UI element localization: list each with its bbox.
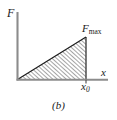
x-axis-label-text: x [101, 66, 106, 78]
x0-subscript: 0 [86, 85, 90, 94]
f-max-subscript: max [89, 27, 102, 36]
x0-label: x0 [81, 81, 90, 94]
f-max-symbol: F [82, 22, 89, 34]
y-axis-label-text: F [7, 6, 14, 20]
y-axis-label: F [7, 7, 14, 19]
x-axis-label: x [101, 67, 106, 78]
figure-panel-b: F Fmax x x0 (b) [0, 0, 117, 120]
figure-caption: (b) [0, 100, 117, 111]
f-max-label: Fmax [82, 23, 102, 36]
